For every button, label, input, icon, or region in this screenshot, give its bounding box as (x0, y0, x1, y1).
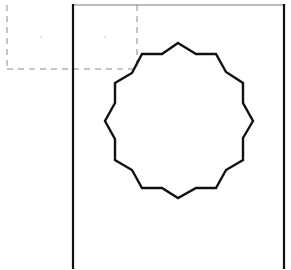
selection-mark-dot (40, 36, 42, 38)
diagram-canvas (0, 0, 291, 270)
selection-mark-dot (104, 36, 106, 38)
background (0, 0, 291, 270)
